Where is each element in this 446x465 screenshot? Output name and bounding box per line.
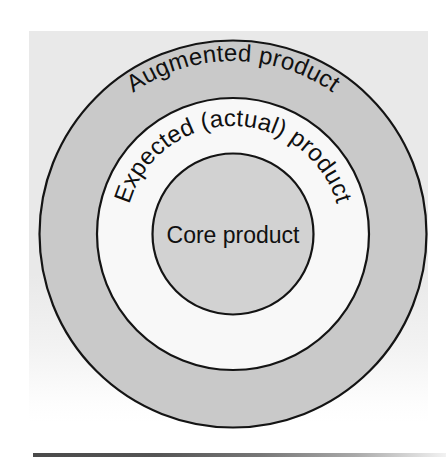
bottom-divider-rule xyxy=(33,453,446,457)
ring-label-core: Core product xyxy=(167,222,301,248)
product-levels-diagram: Augmented product Expected (actual) prod… xyxy=(0,0,446,465)
concentric-rings-graphic: Augmented product Expected (actual) prod… xyxy=(0,0,446,465)
